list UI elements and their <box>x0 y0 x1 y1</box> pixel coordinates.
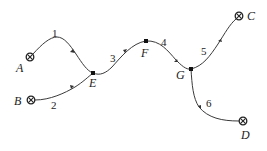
junction-node-e <box>91 71 95 75</box>
terminal-node-d <box>239 117 247 125</box>
edge-4 <box>146 41 191 69</box>
node-label-c: C <box>247 9 256 23</box>
junction-node-g <box>189 67 193 71</box>
node-label-e: E <box>88 76 97 90</box>
edge-1 <box>33 37 93 73</box>
network-diagram: A B C D E F G 1 2 3 4 5 6 <box>0 0 267 151</box>
edge-5 <box>191 19 236 69</box>
node-label-d: D <box>240 128 250 142</box>
node-label-a: A <box>15 61 24 75</box>
edge-label-3: 3 <box>110 52 116 64</box>
edge-label-1: 1 <box>52 27 58 39</box>
terminal-node-b <box>27 96 35 104</box>
edge-2 <box>35 73 93 100</box>
node-label-f: F <box>140 46 149 60</box>
edge-label-4: 4 <box>161 36 167 48</box>
junction-node-f <box>144 39 148 43</box>
edge-label-5: 5 <box>201 45 207 57</box>
terminal-node-c <box>235 12 243 20</box>
edge-6 <box>191 69 239 121</box>
terminal-node-a <box>26 53 34 61</box>
node-label-b: B <box>14 94 22 108</box>
node-label-g: G <box>176 68 185 82</box>
edge-label-6: 6 <box>206 97 212 109</box>
edge-label-2: 2 <box>51 99 57 111</box>
edge-3 <box>93 41 146 74</box>
